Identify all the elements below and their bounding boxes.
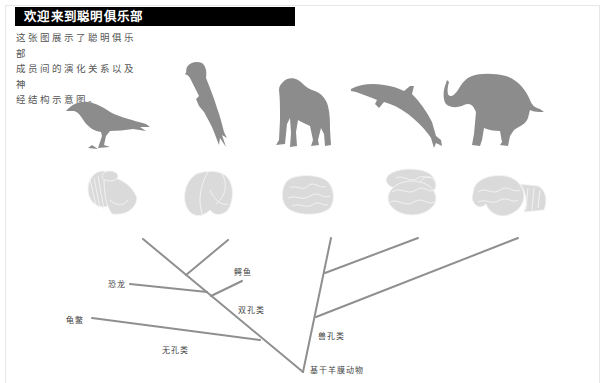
chimpanzee-brain-icon (282, 176, 333, 215)
label-anapsids: 无孔类 (162, 344, 189, 355)
tree-branch-elephant (316, 238, 518, 317)
label-turtle: 龟鳖 (66, 314, 84, 325)
crow-brain-icon (88, 171, 137, 214)
label-crocodile: 鳄鱼 (234, 266, 252, 277)
label-basal-amniotes: 基干羊膜动物 (310, 364, 364, 375)
tree-branch-parrot (186, 240, 228, 275)
evolution-diagram (0, 0, 609, 383)
elephant-silhouette-icon (444, 74, 544, 146)
label-diapsids: 双孔类 (238, 304, 265, 315)
crow-silhouette-icon (66, 102, 150, 149)
elephant-brain-icon (472, 176, 546, 217)
dolphin-silhouette-icon (351, 84, 442, 148)
dolphin-brain-icon (386, 169, 436, 215)
tree-branch-dinosaur (130, 284, 207, 292)
chimpanzee-silhouette-icon (276, 78, 331, 147)
tree-branch-turtle (92, 318, 260, 340)
parrot-brain-icon (185, 171, 233, 215)
tree-branch-dolphin (325, 238, 418, 273)
tree-branch-synapsid-stem (303, 238, 331, 372)
label-dinosaur: 恐龙 (108, 278, 126, 289)
label-synapsids: 兽孔类 (318, 330, 345, 341)
tree-branch-crocodile (211, 281, 242, 296)
parrot-silhouette-icon (185, 62, 227, 147)
